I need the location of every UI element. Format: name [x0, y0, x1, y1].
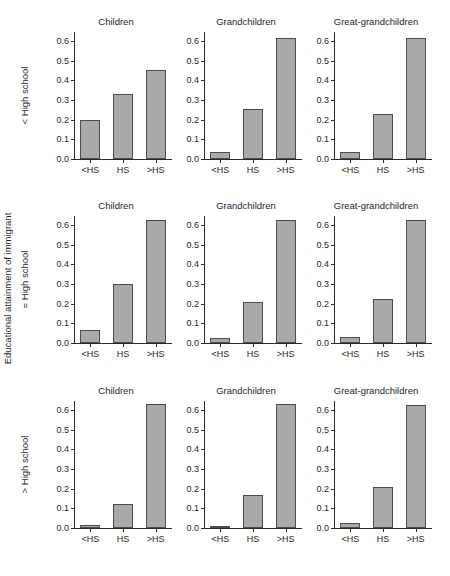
x-tick-label: HS	[367, 165, 400, 175]
y-tick-label: 0.3	[178, 95, 199, 105]
y-tick-label: 0.1	[308, 318, 329, 328]
y-tick-mark	[331, 41, 334, 42]
bar	[243, 302, 263, 343]
y-tick-label: 0.6	[178, 220, 199, 230]
y-tick-label: 0.5	[178, 240, 199, 250]
y-tick-mark	[71, 225, 74, 226]
plot-area: 0.00.10.20.30.40.50.6<HSHS>HS	[48, 401, 184, 550]
y-tick-mark	[201, 245, 204, 246]
y-tick-mark	[201, 469, 204, 470]
y-tick-label: 0.6	[308, 220, 329, 230]
y-axis-line	[74, 401, 75, 528]
y-tick-label: 0.6	[48, 220, 69, 230]
bar	[406, 405, 426, 528]
y-tick-mark	[201, 100, 204, 101]
x-tick-label: >HS	[139, 534, 172, 544]
row-label-text: < High school	[20, 67, 31, 125]
bar	[406, 38, 426, 159]
y-tick-mark	[201, 225, 204, 226]
y-axis-line	[334, 401, 335, 528]
y-tick-mark	[71, 508, 74, 509]
y-tick-mark	[331, 449, 334, 450]
y-tick-label: 0.0	[48, 338, 69, 348]
y-tick-label: 0.3	[48, 464, 69, 474]
y-tick-mark	[331, 508, 334, 509]
figure-panel-grid: Educational attainment of immigrant < Hi…	[0, 0, 450, 576]
panel-title: Grandchildren	[178, 385, 314, 396]
x-tick-mark	[286, 529, 287, 532]
y-tick-mark	[71, 343, 74, 344]
x-tick-mark	[350, 160, 351, 163]
plot-area: 0.00.10.20.30.40.50.6<HSHS>HS	[308, 216, 444, 365]
bar	[113, 504, 133, 528]
bar	[243, 495, 263, 528]
y-tick-label: 0.0	[178, 338, 199, 348]
panel-title: Children	[48, 16, 184, 27]
row-label-text: > High school	[20, 436, 31, 494]
x-tick-label: >HS	[269, 165, 302, 175]
y-tick-label: 0.0	[308, 154, 329, 164]
y-tick-label: 0.1	[48, 318, 69, 328]
y-tick-label: 0.2	[178, 484, 199, 494]
panel-r1-c2: Grandchildren0.00.10.20.30.40.50.6<HSHS>…	[178, 16, 314, 191]
bar	[373, 114, 393, 159]
panel-r2-c2: Grandchildren0.00.10.20.30.40.50.6<HSHS>…	[178, 200, 314, 375]
x-tick-mark	[123, 529, 124, 532]
y-tick-label: 0.2	[48, 299, 69, 309]
x-tick-mark	[90, 344, 91, 347]
plot-area: 0.00.10.20.30.40.50.6<HSHS>HS	[308, 401, 444, 550]
x-tick-label: >HS	[269, 349, 302, 359]
y-tick-mark	[201, 139, 204, 140]
x-tick-mark	[383, 529, 384, 532]
x-tick-label: >HS	[399, 534, 432, 544]
y-tick-label: 0.1	[178, 134, 199, 144]
x-tick-label: HS	[367, 349, 400, 359]
y-tick-mark	[331, 159, 334, 160]
y-tick-label: 0.2	[308, 299, 329, 309]
x-tick-mark	[156, 160, 157, 163]
x-tick-mark	[123, 160, 124, 163]
y-tick-label: 0.0	[48, 154, 69, 164]
y-tick-mark	[201, 410, 204, 411]
y-tick-label: 0.0	[308, 338, 329, 348]
bar	[340, 523, 360, 528]
y-tick-mark	[331, 469, 334, 470]
panel-title: Great-grandchildren	[308, 16, 444, 27]
y-tick-label: 0.2	[308, 115, 329, 125]
y-tick-mark	[331, 343, 334, 344]
y-tick-label: 0.1	[178, 503, 199, 513]
y-tick-mark	[71, 304, 74, 305]
y-tick-mark	[71, 430, 74, 431]
y-tick-mark	[331, 430, 334, 431]
x-tick-label: HS	[237, 165, 270, 175]
panel-r1-c3: Great-grandchildren0.00.10.20.30.40.50.6…	[308, 16, 444, 191]
x-tick-label: <HS	[74, 534, 107, 544]
y-tick-label: 0.0	[48, 523, 69, 533]
y-tick-mark	[331, 120, 334, 121]
panel-title: Grandchildren	[178, 200, 314, 211]
bar	[80, 330, 100, 343]
x-tick-label: <HS	[74, 165, 107, 175]
y-tick-label: 0.4	[48, 259, 69, 269]
y-tick-label: 0.3	[308, 464, 329, 474]
y-tick-mark	[71, 120, 74, 121]
y-tick-label: 0.1	[308, 134, 329, 144]
y-tick-mark	[201, 323, 204, 324]
y-tick-mark	[71, 489, 74, 490]
bar	[146, 404, 166, 528]
bar	[210, 526, 230, 528]
y-tick-mark	[331, 489, 334, 490]
y-tick-mark	[331, 61, 334, 62]
y-tick-label: 0.1	[48, 503, 69, 513]
y-tick-label: 0.5	[308, 240, 329, 250]
x-tick-mark	[350, 344, 351, 347]
y-tick-label: 0.0	[178, 154, 199, 164]
x-tick-label: <HS	[334, 165, 367, 175]
y-tick-label: 0.6	[48, 405, 69, 415]
x-tick-label: HS	[367, 534, 400, 544]
y-axis-line	[74, 216, 75, 343]
x-tick-mark	[220, 529, 221, 532]
y-tick-mark	[331, 264, 334, 265]
x-tick-label: HS	[107, 349, 140, 359]
y-tick-label: 0.2	[178, 115, 199, 125]
